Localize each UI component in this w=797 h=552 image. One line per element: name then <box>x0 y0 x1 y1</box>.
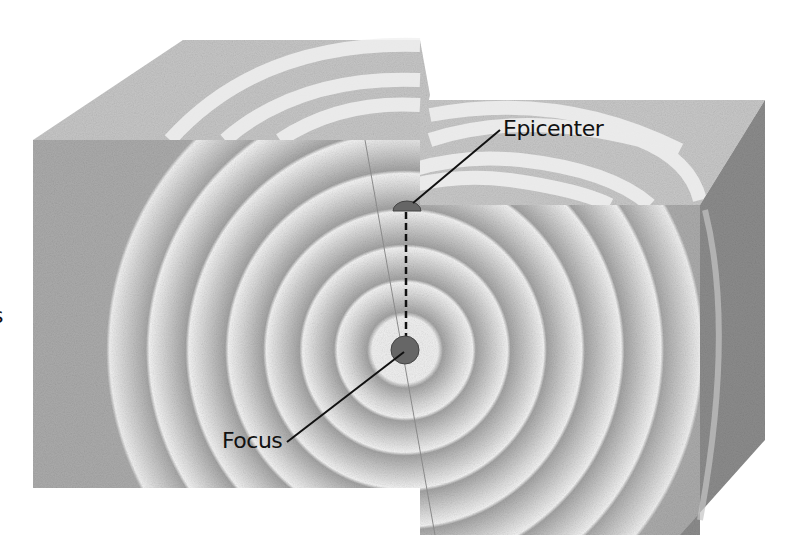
epicenter-label: Epicenter <box>503 116 603 141</box>
cropped-label-fragment: s <box>0 303 3 328</box>
diagram-canvas <box>0 0 797 552</box>
focus-label: Focus <box>222 428 282 453</box>
earthquake-diagram: Epicenter Focus s <box>0 0 797 552</box>
right-block-front-face <box>420 205 705 540</box>
